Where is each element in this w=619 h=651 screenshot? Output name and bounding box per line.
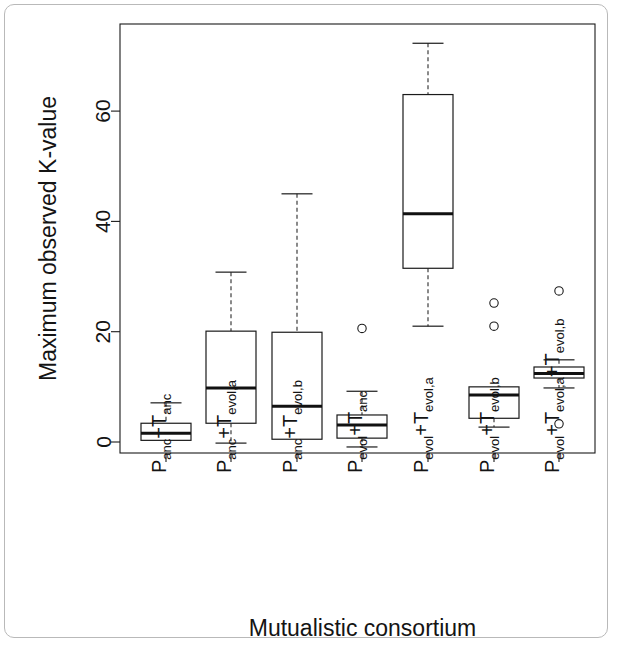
outlier-point: [555, 287, 563, 295]
x-axis-title: Mutualistic consortium: [249, 615, 477, 641]
x-category-label: Pevol+Tevol,a+Tevol,b: [541, 319, 567, 473]
interquartile-box: [403, 95, 453, 269]
outlier-point: [490, 299, 498, 307]
figure-root: 0204060 Panc+TancPanc+Tevol,aPanc+Tevol,…: [0, 0, 619, 651]
y-tick-label: 40: [92, 210, 115, 233]
outlier-point: [358, 324, 366, 332]
x-category-label: Pevol+Tevol,a: [410, 376, 436, 473]
box-series: [141, 43, 584, 447]
outlier-point: [490, 322, 498, 330]
y-tick-label: 20: [92, 320, 115, 343]
plot-border: [120, 24, 595, 453]
y-tick-label: 60: [92, 99, 115, 122]
boxplot-box: [403, 43, 453, 326]
y-tick-label: 0: [92, 436, 115, 448]
y-axis-title: Maximum observed K-value: [35, 96, 61, 381]
boxplot-chart: 0204060 Panc+TancPanc+Tevol,aPanc+Tevol,…: [0, 0, 619, 651]
plot-axis-box: [120, 24, 595, 453]
